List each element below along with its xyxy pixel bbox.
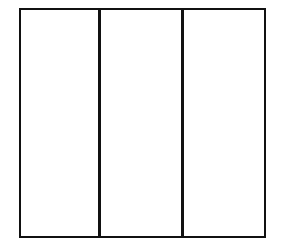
section-3 <box>184 10 263 236</box>
divided-rectangle-diagram <box>0 0 281 249</box>
section-2 <box>101 10 181 236</box>
section-1 <box>21 10 98 236</box>
